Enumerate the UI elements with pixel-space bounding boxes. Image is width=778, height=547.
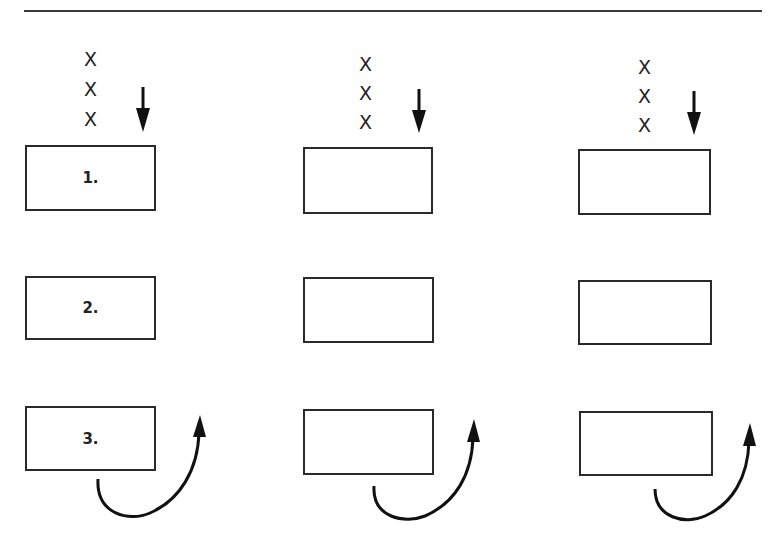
down-arrow-icon <box>136 87 150 132</box>
down-arrow-icon <box>687 91 701 135</box>
curved-up-arrow-icon <box>374 419 480 519</box>
down-arrow-icon <box>412 89 426 133</box>
arrows-layer <box>0 0 778 547</box>
curved-up-arrow-icon <box>655 423 756 520</box>
curved-up-arrow-icon <box>98 415 206 517</box>
